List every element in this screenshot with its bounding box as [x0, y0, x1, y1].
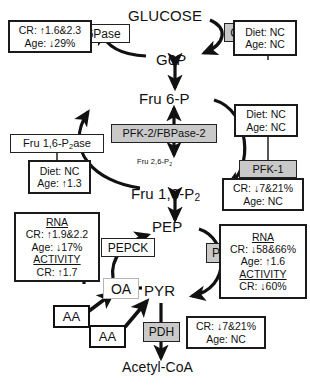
g6pase-annotation: CR: ↑1.6&2.3 Age: ↓29% [8, 20, 92, 53]
enzyme-pepck[interactable]: PEPCK [101, 238, 155, 257]
pdh-annotation-line-0: CR: ↓7&21% [196, 320, 256, 332]
enzyme-fru16p2ase[interactable]: Fru 1,6-P2ase [10, 134, 104, 153]
metabolite-oa: OA [111, 281, 131, 297]
pfk1-lower-annotation: CR: ↓7&21% Age: NC [222, 178, 304, 211]
pfk1-upper-annotation: Diet: NC Age: NC [234, 104, 298, 137]
pepck-annotation-line-4: CR: ↑1.7 [37, 266, 78, 278]
pk-annotation-line-1: CR: ↓58&66% [230, 243, 296, 255]
metabolite-fru16p2: Fru 1,6-P2 [131, 186, 200, 201]
metabolite-oa-box: OA [103, 278, 139, 299]
enzyme-pfk1-label: PFK-1 [252, 164, 283, 175]
pk-annotation-line-2: Age: ↑1.6 [241, 255, 285, 267]
pepck-annotation-line-0: RNA [46, 216, 68, 228]
enzyme-pdh-label: PDH [149, 326, 174, 338]
pathway-diagram: GLUCOSE G6P Fru 6-P Fru 2,6-P2 Fru 1,6-P… [0, 0, 310, 387]
g6pase-annotation-line-0: CR: ↑1.6&2.3 [19, 24, 81, 36]
gk-annotation: Diet: NC Age: NC [233, 20, 297, 56]
metabolite-pyr: PYR [144, 283, 175, 298]
fru26p2-main: Fru 2,6-P [137, 157, 169, 166]
gk-annotation-line-1: Age: NC [245, 38, 285, 50]
aa-left-label: AA [63, 309, 80, 324]
g6pase-annotation-line-1: Age: ↓29% [25, 37, 76, 49]
metabolite-pep: PEP [152, 219, 182, 234]
aa-right-label: AA [99, 329, 116, 344]
pfk1-upper-annotation-line-0: Diet: NC [246, 108, 286, 120]
metabolite-g6p: G6P [156, 52, 186, 67]
metabolite-aa-left: AA [53, 305, 90, 328]
gk-annotation-line-0: Diet: NC [245, 26, 285, 38]
metabolite-fru6p: Fru 6-P [139, 91, 190, 106]
enzyme-fru16p2ase-label: Fru 1,6-P2ase [23, 138, 91, 149]
fru16p2ase-annotation-line-0: Diet: NC [40, 165, 80, 177]
pk-annotation: RNA CR: ↓58&66% Age: ↑1.6 ACTIVITY CR: ↓… [219, 224, 307, 299]
pk-annotation-line-4: CR: ↓60% [239, 280, 286, 292]
pfk1-lower-annotation-line-0: CR: ↓7&21% [233, 182, 293, 194]
arrow-glucose-to-g6p [204, 20, 222, 53]
enzyme-pfk2-fbpase2-label: PFK-2/FBPase-2 [122, 128, 205, 139]
pepck-annotation-line-2: Age: ↓17% [32, 241, 83, 253]
pk-annotation-line-0: RNA [252, 231, 274, 243]
metabolite-acetyl-coa: Acetyl-CoA [122, 360, 193, 374]
pdh-annotation: CR: ↓7&21% Age: NC [186, 316, 266, 349]
pdh-annotation-line-1: Age: NC [206, 333, 246, 345]
enzyme-pdh[interactable]: PDH [143, 322, 180, 342]
metabolite-fru26p2: Fru 2,6-P2 [137, 158, 172, 166]
fru16p2-main: Fru 1,6-P [131, 185, 194, 202]
fru16p2-subscript: 2 [194, 192, 200, 203]
enzyme-pfk2-fbpase2[interactable]: PFK-2/FBPase-2 [111, 124, 217, 143]
pepck-annotation-line-1: CR: ↑1.9&2.2 [26, 228, 88, 240]
metabolite-glucose: GLUCOSE [128, 8, 202, 23]
pk-annotation-line-3: ACTIVITY [239, 268, 286, 280]
fru16p2ase-annotation: Diet: NC Age: ↑1.3 [28, 160, 91, 194]
pfk1-lower-annotation-line-1: Age: NC [243, 195, 283, 207]
enzyme-pfk1[interactable]: PFK-1 [239, 160, 297, 178]
pepck-annotation: RNA CR: ↑1.9&2.2 Age: ↓17% ACTIVITY CR: … [14, 212, 100, 282]
fru16p2ase-annotation-line-1: Age: ↑1.3 [37, 177, 81, 189]
pfk1-upper-annotation-line-1: Age: NC [246, 121, 286, 133]
metabolite-aa-right: AA [89, 325, 126, 348]
pepck-annotation-line-3: ACTIVITY [33, 253, 80, 265]
enzyme-pepck-label: PEPCK [108, 242, 149, 254]
fru26p2-subscript: 2 [169, 161, 172, 167]
